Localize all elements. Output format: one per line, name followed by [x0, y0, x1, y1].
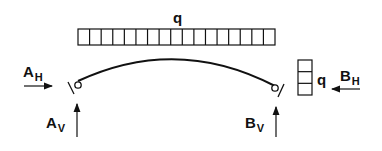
- reaction-a-h-sub: H: [35, 71, 43, 83]
- reaction-b-v-sub: V: [257, 122, 264, 134]
- reaction-b-h-label: BH: [340, 68, 360, 84]
- side-load-label: q: [317, 72, 326, 87]
- reaction-a-h-label: AH: [23, 64, 43, 80]
- reaction-b-h-sub: H: [352, 75, 360, 87]
- reaction-b-v-label: BV: [245, 115, 264, 131]
- reaction-a-v-sub: V: [58, 122, 65, 134]
- arch-curve: [78, 59, 275, 86]
- distributed-load-top: [78, 29, 275, 45]
- reaction-a-v-main: A: [46, 114, 57, 131]
- distributed-load-side: [298, 60, 312, 95]
- reaction-a-h-main: A: [23, 63, 34, 80]
- right-hinge-support: [272, 84, 284, 97]
- reaction-b-h-main: B: [340, 67, 351, 84]
- reaction-b-v-main: B: [245, 114, 256, 131]
- top-load-label: q: [173, 10, 182, 25]
- left-hinge-support: [68, 82, 81, 94]
- reaction-a-v-label: AV: [46, 115, 65, 131]
